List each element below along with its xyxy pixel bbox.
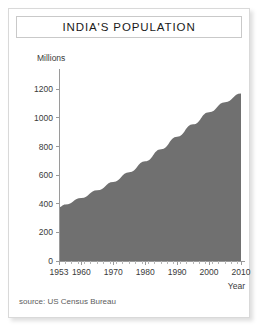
area-chart-svg: Millions 020040060080010001200 195319601… (9, 39, 251, 289)
y-tick-label: 600 (39, 170, 53, 180)
x-tick-label: 2010 (232, 267, 251, 277)
y-tick-label: 400 (39, 199, 53, 209)
y-tick-label: 1200 (34, 84, 53, 94)
y-tick-label: 800 (39, 142, 53, 152)
x-tick-label: 1980 (136, 267, 155, 277)
x-axis-label: Year (228, 281, 245, 289)
population-area-series (59, 94, 241, 261)
chart-figure: INDIA'S POPULATION Millions 020040060080… (8, 8, 250, 318)
x-tick-label: 1953 (50, 267, 69, 277)
page-title: INDIA'S POPULATION (62, 21, 195, 33)
source-note: source: US Census Bureau (19, 297, 116, 306)
y-tick-label: 0 (48, 256, 53, 266)
plot-area: Millions 020040060080010001200 195319601… (9, 39, 251, 289)
chart-title-box: INDIA'S POPULATION (16, 16, 242, 38)
y-axis-label: Millions (37, 53, 65, 63)
x-tick-label: 2000 (200, 267, 219, 277)
x-tick-label: 1960 (72, 267, 91, 277)
y-tick-label: 200 (39, 227, 53, 237)
x-tick-label: 1990 (168, 267, 187, 277)
y-tick-label: 1000 (34, 113, 53, 123)
x-tick-label: 1970 (104, 267, 123, 277)
